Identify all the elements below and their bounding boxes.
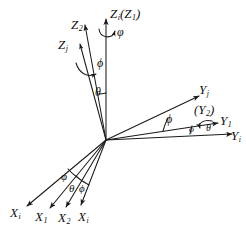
axis-label-y-i-sub: i — [238, 135, 241, 144]
axis-label-y-2: (Y2) — [194, 103, 214, 118]
angle-label-x-phi: ϕ — [79, 183, 85, 194]
angle-label-z-phi: ϕ — [97, 57, 103, 69]
axis-label-x-i-left: Xi — [10, 206, 21, 221]
axis-label-z-2-sub: 2 — [78, 24, 83, 33]
axis-label-y-j-sub: j — [206, 89, 209, 98]
axis-label-z-1-base: Z — [124, 6, 131, 21]
axis-label-y-2-paren-close: ) — [210, 102, 214, 117]
axis-label-x-i-right: Xi — [78, 210, 89, 225]
euler-angle-diagram: Zi(Z1) Z2 Zj φ ϕ θ Yj (Y2) Y1 Yi ϕ φ θ X… — [0, 0, 246, 235]
axis-label-x-i-right-sub: i — [86, 216, 89, 225]
axis-label-x-2-sub: 2 — [66, 217, 71, 226]
axis-label-x-1-base: X — [35, 209, 43, 224]
axis-label-y-i: Yi — [231, 129, 241, 144]
axis-label-z-i-z1: Zi(Z1) — [110, 7, 140, 22]
axis-line-x-1 — [50, 140, 106, 208]
angle-label-x-theta: θ — [69, 183, 74, 194]
axis-label-z-2: Z2 — [71, 18, 83, 33]
angle-label-z-varphi: φ — [117, 26, 124, 38]
angle-label-y-theta: θ — [206, 123, 211, 133]
axis-label-paren-close: ) — [136, 6, 140, 21]
angle-label-y-phi: ϕ — [166, 113, 172, 125]
axis-label-y-j: Yj — [199, 83, 209, 98]
axis-label-x-2-base: X — [58, 210, 66, 225]
axis-label-x-i-left-base: X — [10, 205, 18, 220]
axis-label-x-i-right-base: X — [78, 209, 86, 224]
axis-label-y-2-base: Y — [198, 102, 205, 117]
axis-line-z-2 — [85, 25, 106, 140]
angle-label-x-varphi: φ — [61, 171, 67, 182]
angle-arc-x-varphi — [68, 169, 77, 177]
axis-label-x-1: X1 — [35, 210, 47, 225]
axis-label-y-1: Y1 — [220, 114, 232, 129]
axis-label-x-1-sub: 1 — [43, 216, 48, 225]
axis-line-x-i-right — [81, 140, 106, 205]
axis-label-z-j: Zj — [58, 38, 68, 53]
angle-label-y-varphi: φ — [189, 125, 194, 134]
axis-label-x-2: X2 — [58, 211, 70, 226]
angle-arc-z-varphi — [99, 29, 115, 37]
angle-label-z-theta: θ — [95, 86, 101, 98]
axis-label-z-j-sub: j — [65, 44, 68, 53]
axis-label-x-i-left-sub: i — [18, 212, 21, 221]
